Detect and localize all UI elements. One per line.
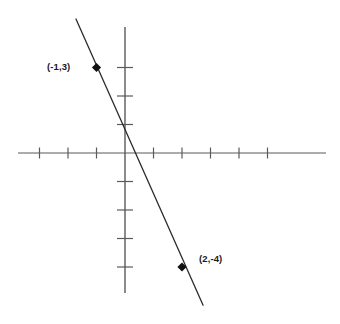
point-label-2-minus4: (2,-4) (199, 253, 222, 265)
y-axis-group (117, 27, 133, 293)
data-point-markers (92, 63, 187, 272)
data-point-marker-0 (92, 63, 101, 72)
graph-figure: (-1,3) (2,-4) (0, 0, 340, 324)
coordinate-plane-svg (0, 0, 340, 324)
plotted-line (76, 19, 203, 305)
x-axis-group (18, 148, 326, 159)
point-label-minus1-3: (-1,3) (47, 61, 70, 73)
plotted-line-group (76, 19, 203, 305)
